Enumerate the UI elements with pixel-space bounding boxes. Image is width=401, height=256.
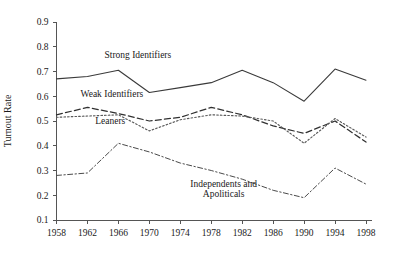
x-tick-label: 1970 <box>140 228 159 238</box>
x-tick-label: 1994 <box>326 228 345 238</box>
x-tick-label: 1986 <box>264 228 283 238</box>
y-tick-label: 0.1 <box>37 215 49 225</box>
x-tick-label: 1998 <box>357 228 376 238</box>
x-tick-label: 1974 <box>171 228 190 238</box>
y-tick-label: 0.4 <box>37 141 49 151</box>
y-tick-label: 0.6 <box>37 92 49 102</box>
turnout-rate-line-chart: 0.10.20.30.40.50.60.70.80.9 195819621966… <box>0 0 401 256</box>
y-axis-title: Turnout Rate <box>2 94 13 147</box>
x-tick-label: 1978 <box>202 228 221 238</box>
series-annotation-label: Apoliticals <box>203 189 245 199</box>
series-annotation-label: Weak Identifiers <box>80 89 143 99</box>
y-tick-label: 0.2 <box>37 191 49 201</box>
x-tick-label: 1966 <box>109 228 128 238</box>
y-tick-label: 0.7 <box>37 67 49 77</box>
y-axis-ticks: 0.10.20.30.40.50.60.70.80.9 <box>37 17 57 225</box>
y-tick-label: 0.3 <box>37 166 49 176</box>
y-tick-label: 0.9 <box>37 17 49 27</box>
series-annotation-label: Independents and <box>190 179 257 189</box>
y-tick-label: 0.8 <box>37 42 49 52</box>
y-tick-label: 0.5 <box>37 116 49 126</box>
x-tick-label: 1982 <box>233 228 252 238</box>
series-annotation-label: Leaners <box>95 116 125 126</box>
series-annotation-label: Strong Identifiers <box>104 50 171 60</box>
chart-container: 0.10.20.30.40.50.60.70.80.9 195819621966… <box>0 0 401 256</box>
x-tick-label: 1958 <box>47 228 66 238</box>
x-tick-label: 1962 <box>78 228 97 238</box>
x-tick-label: 1990 <box>295 228 314 238</box>
x-axis-ticks: 1958196219661970197419781982198619901994… <box>47 220 376 238</box>
